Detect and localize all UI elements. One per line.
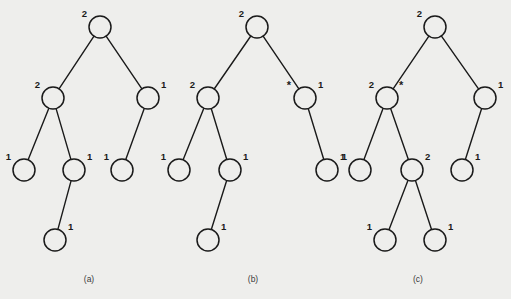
node-circle (89, 16, 111, 38)
node-balance-label: 1 (342, 151, 348, 162)
node-balance-label: 1 (6, 151, 12, 162)
node-balance-label: 2 (82, 8, 87, 19)
node-circle (168, 159, 190, 181)
tree-node-right-child: 1 (137, 79, 167, 109)
panels-layer: 2211111(a)221*1111(b)22*112111(c) (6, 8, 504, 284)
tree-edge (441, 35, 479, 90)
panel-caption-c: (c) (413, 274, 423, 284)
tree-node-left-left-leaf: 1 (161, 151, 190, 181)
tree-edge (364, 107, 384, 160)
node-balance-label: 1 (475, 151, 481, 162)
node-balance-label: 2 (239, 8, 244, 19)
panel-caption-b: (b) (248, 274, 259, 284)
tree-panel-b: 221*1111(b) (161, 8, 346, 284)
node-circle (219, 159, 241, 181)
tree-edge (59, 35, 95, 89)
node-balance-label: 2 (369, 79, 374, 90)
node-circle (316, 159, 338, 181)
node-circle (197, 87, 219, 109)
node-balance-label: 1 (87, 151, 93, 162)
node-balance-label: 2 (190, 79, 195, 90)
tree-figure-svg: 2211111(a)221*1111(b)22*112111(c) (0, 0, 511, 299)
node-balance-label: 1 (448, 221, 454, 232)
node-circle (424, 16, 446, 38)
tree-node-left-right-node: 2 (401, 151, 430, 181)
tree-edge (183, 107, 205, 160)
node-balance-label: 2 (425, 151, 430, 162)
tree-edge (389, 179, 409, 230)
tree-edge (263, 35, 300, 89)
node-circle (42, 87, 64, 109)
tree-node-bottom-left-leaf: 1 (367, 221, 396, 251)
node-balance-label: 1 (161, 151, 167, 162)
tree-edge (56, 108, 71, 161)
tree-edge (214, 35, 252, 90)
node-circle (451, 159, 473, 181)
tree-node-left-left-leaf: 1 (342, 151, 371, 181)
node-circle (13, 159, 35, 181)
node-balance-label: 1 (367, 221, 373, 232)
node-balance-label: 1 (221, 221, 227, 232)
tree-node-right-child: 1 (474, 79, 504, 109)
tree-node-left-right-node: 1 (63, 151, 93, 181)
tree-node-left-left-leaf: 1 (6, 151, 35, 181)
tree-edge (28, 107, 50, 160)
node-circle (401, 159, 423, 181)
tree-edge (390, 107, 408, 160)
tree-edge (415, 180, 432, 231)
tree-node-right-left-leaf: 1 (104, 151, 133, 181)
node-balance-label: 1 (243, 151, 249, 162)
edges-group (183, 35, 324, 230)
node-balance-label: 1 (318, 79, 324, 90)
panel-caption-a: (a) (84, 274, 95, 284)
node-circle (374, 229, 396, 251)
tree-edge (308, 108, 324, 161)
edges-group (364, 35, 482, 230)
node-circle (246, 16, 268, 38)
tree-panel-c: 22*112111(c) (342, 8, 504, 284)
node-circle (63, 159, 85, 181)
node-circle (349, 159, 371, 181)
tree-node-left-child: 2 (35, 79, 64, 109)
edges-group (28, 35, 145, 230)
node-circle (111, 159, 133, 181)
figure-page: 2211111(a)221*1111(b)22*112111(c) (0, 0, 511, 299)
tree-node-root: 2 (417, 8, 446, 38)
tree-node-left-right-node: 1 (219, 151, 249, 181)
tree-node-root: 2 (239, 8, 268, 38)
node-balance-label: 2 (35, 79, 40, 90)
node-circle (294, 87, 316, 109)
tree-edge (125, 107, 144, 160)
tree-node-bottom-right-leaf: 1 (424, 221, 454, 251)
tree-node-left-child: 2* (369, 79, 404, 109)
tree-node-left-child: 2 (190, 79, 219, 109)
node-star-marker-icon: * (287, 79, 292, 91)
node-circle (44, 229, 66, 251)
node-star-marker-icon: * (399, 79, 404, 91)
node-balance-label: 1 (68, 221, 74, 232)
node-circle (137, 87, 159, 109)
node-balance-label: 1 (104, 151, 110, 162)
tree-edge (211, 108, 227, 161)
node-circle (376, 87, 398, 109)
node-balance-label: 1 (498, 79, 504, 90)
node-circle (197, 229, 219, 251)
tree-panel-a: 2211111(a) (6, 8, 167, 284)
tree-node-root: 2 (82, 8, 111, 38)
tree-edge (106, 35, 143, 89)
tree-node-right-child: 1* (287, 79, 324, 109)
node-circle (474, 87, 496, 109)
node-balance-label: 1 (161, 79, 167, 90)
node-balance-label: 2 (417, 8, 422, 19)
node-circle (424, 229, 446, 251)
